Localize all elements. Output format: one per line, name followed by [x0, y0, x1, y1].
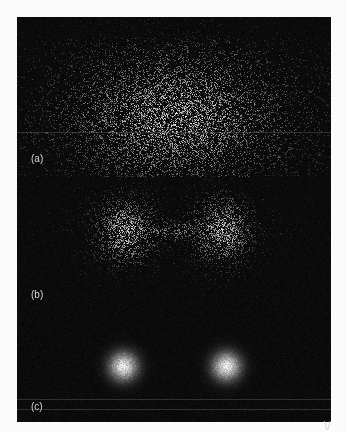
panel-label-c: (c)	[31, 401, 43, 412]
panel-label-b: (b)	[31, 289, 43, 300]
scanline	[17, 399, 331, 400]
scanline	[17, 409, 331, 410]
panel-label-a: (a)	[31, 153, 43, 164]
scanline	[17, 132, 331, 133]
speckle-canvas	[17, 17, 331, 422]
speckle-figure: (a) (b) (c)	[17, 17, 331, 422]
corner-mark: \/	[324, 420, 331, 431]
